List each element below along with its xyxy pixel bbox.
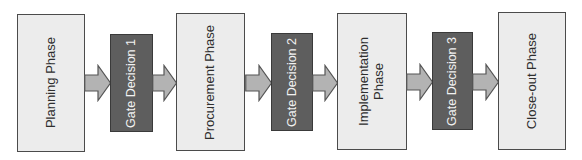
- process-flow-diagram: Planning Phase Gate Decision 1 Procureme…: [0, 0, 582, 160]
- gate-decision-2-box: Gate Decision 2: [271, 33, 313, 131]
- close-out-phase-box: Close-out Phase: [498, 12, 566, 150]
- gate-decision-1-label: Gate Decision 1: [124, 39, 138, 128]
- right-arrow-icon: [84, 64, 112, 102]
- gate-decision-3-label: Gate Decision 3: [445, 37, 459, 126]
- right-arrow-icon: [472, 63, 500, 101]
- implementation-phase-label: Implementation Phase: [357, 37, 387, 126]
- right-arrow-icon: [152, 64, 178, 102]
- right-arrow-icon: [406, 63, 434, 101]
- implementation-phase-box: Implementation Phase: [337, 13, 407, 150]
- planning-phase-label: Planning Phase: [44, 37, 59, 128]
- gate-decision-1-box: Gate Decision 1: [110, 34, 153, 132]
- close-out-phase-label: Close-out Phase: [525, 33, 540, 129]
- right-arrow-icon: [245, 64, 273, 102]
- right-arrow-icon: [312, 64, 339, 102]
- procurement-phase-box: Procurement Phase: [176, 13, 245, 151]
- planning-phase-box: Planning Phase: [17, 14, 85, 152]
- procurement-phase-label: Procurement Phase: [203, 25, 218, 140]
- gate-decision-3-box: Gate Decision 3: [432, 32, 473, 130]
- gate-decision-2-label: Gate Decision 2: [285, 38, 299, 127]
